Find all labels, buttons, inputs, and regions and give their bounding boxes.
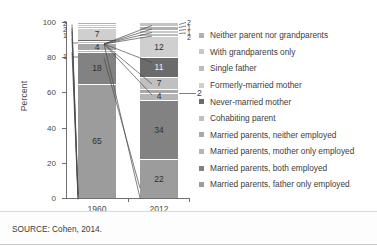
legend-item-5[interactable]: Cohabiting parent bbox=[199, 110, 375, 127]
y-axis-title: Percent bbox=[19, 81, 29, 112]
y-tick-40: 40 bbox=[62, 128, 66, 129]
bar-2012-value-mother-only: 4 bbox=[157, 92, 162, 101]
bar-2012-segment-single-father bbox=[140, 33, 178, 37]
y-tick-60: 60 bbox=[62, 92, 66, 93]
y-tick-0: 0 bbox=[62, 198, 66, 199]
chart-figure: Percent 100 80 60 40 20 0 bbox=[0, 0, 377, 247]
plot-area: 100 80 60 40 20 0 1960 2012 bbox=[66, 22, 189, 198]
bar-2012-segment-married-neither bbox=[140, 89, 178, 93]
bar-2012: 22 34 4 7 11 bbox=[140, 22, 178, 198]
bar-1960-segment-grandparents-only bbox=[78, 24, 116, 26]
x-tick-label-2012: 2012 bbox=[150, 204, 169, 214]
bar-2012-segment-grandparents-only bbox=[140, 30, 178, 33]
legend-label-1: With grandparents only bbox=[210, 48, 295, 56]
legend-swatch-icon-8 bbox=[199, 166, 204, 171]
legend-swatch-icon-0 bbox=[199, 33, 204, 38]
bar-2012-value-formerly-married: 12 bbox=[154, 43, 163, 52]
bar-1960-segment-cohabiting bbox=[78, 41, 116, 43]
panel-divider bbox=[0, 211, 377, 212]
legend-swatch-icon-7 bbox=[199, 149, 204, 154]
bar-1960: 65 18 4 7 bbox=[78, 22, 116, 198]
x-tick-end bbox=[189, 198, 190, 202]
bar-2012-segment-neither-parent bbox=[140, 26, 178, 29]
bar-2012-value-father-only: 22 bbox=[154, 175, 163, 184]
legend-item-9[interactable]: Married parents, father only employed bbox=[199, 176, 375, 193]
legend-swatch-icon-2 bbox=[199, 66, 204, 71]
bar-2012-segment-top-residual bbox=[140, 22, 178, 26]
x-tick-label-1960: 1960 bbox=[88, 204, 107, 214]
bar-2012-segment-formerly-married: 12 bbox=[140, 36, 178, 57]
bar-2012-segment-cohabiting: 7 bbox=[140, 77, 178, 89]
legend-item-3[interactable]: Formerly-married mother bbox=[199, 77, 375, 94]
y-tick-label-20: 20 bbox=[47, 158, 56, 167]
figure-bottom-divider bbox=[0, 244, 377, 245]
legend-item-8[interactable]: Married parents, both employed bbox=[199, 160, 375, 177]
legend-label-7: Married parents, mother only employed bbox=[210, 147, 354, 155]
leader-label-1960-d: 1 bbox=[63, 53, 67, 60]
legend: Neither parent nor grandparents With gra… bbox=[199, 27, 375, 193]
y-tick-20: 20 bbox=[62, 163, 66, 164]
legend-item-6[interactable]: Married parents, neither employed bbox=[199, 127, 375, 144]
bar-2012-value-never-married: 11 bbox=[155, 63, 164, 72]
bar-1960-segment-married-father-only: 65 bbox=[78, 84, 116, 198]
bar-1960-value-both: 18 bbox=[92, 64, 101, 73]
legend-label-8: Married parents, both employed bbox=[210, 164, 327, 172]
bar-2012-value-both: 34 bbox=[154, 126, 163, 135]
leader-label-2012-d: 2 bbox=[187, 34, 191, 41]
y-tick-label-80: 80 bbox=[47, 53, 56, 62]
bar-2012-segment-married-both: 34 bbox=[140, 100, 178, 160]
legend-label-5: Cohabiting parent bbox=[210, 114, 276, 122]
y-tick-label-100: 100 bbox=[43, 18, 56, 27]
chart-panel: Percent 100 80 60 40 20 0 bbox=[0, 0, 377, 212]
y-tick-label-40: 40 bbox=[47, 123, 56, 132]
bar-1960-value-father-only: 65 bbox=[92, 137, 101, 146]
legend-item-4[interactable]: Never-married mother bbox=[199, 93, 375, 110]
legend-label-3: Formerly-married mother bbox=[210, 81, 302, 89]
bar-1960-segment-married-neither: 4 bbox=[78, 43, 116, 50]
legend-swatch-icon-5 bbox=[199, 116, 204, 121]
legend-label-2: Single father bbox=[210, 64, 257, 72]
legend-swatch-icon-4 bbox=[199, 99, 204, 104]
legend-label-6: Married parents, neither employed bbox=[210, 131, 336, 139]
x-tick-mid bbox=[128, 198, 129, 202]
legend-label-4: Never-married mother bbox=[210, 98, 291, 106]
bar-1960-segment-married-both: 18 bbox=[78, 52, 116, 84]
legend-item-2[interactable]: Single father bbox=[199, 60, 375, 77]
source-note: SOURCE: Cohen, 2014. bbox=[12, 224, 102, 234]
legend-item-7[interactable]: Married parents, mother only employed bbox=[199, 143, 375, 160]
legend-item-0[interactable]: Neither parent nor grandparents bbox=[199, 27, 375, 44]
bar-1960-segment-never-married bbox=[78, 40, 116, 41]
y-tick-label-60: 60 bbox=[47, 88, 56, 97]
bar-1960-segment-single-father bbox=[78, 26, 116, 28]
legend-label-9: Married parents, father only employed bbox=[210, 180, 350, 188]
leader-label-1960-c: 1 bbox=[63, 32, 67, 39]
legend-item-1[interactable]: With grandparents only bbox=[199, 44, 375, 61]
bar-2012-segment-never-married: 11 bbox=[140, 57, 178, 76]
bar-1960-segment-neither-parent bbox=[78, 22, 116, 24]
legend-swatch-icon-9 bbox=[199, 182, 204, 187]
y-tick-label-0: 0 bbox=[52, 194, 56, 203]
legend-swatch-icon-3 bbox=[199, 83, 204, 88]
bar-1960-value-formerly-married: 7 bbox=[95, 30, 100, 39]
bar-2012-segment-married-father-only: 22 bbox=[140, 159, 178, 198]
bar-1960-segment-formerly-married: 7 bbox=[78, 28, 116, 40]
legend-label-0: Neither parent nor grandparents bbox=[210, 31, 328, 39]
legend-swatch-icon-6 bbox=[199, 132, 204, 137]
bar-2012-value-cohabiting: 7 bbox=[157, 79, 162, 88]
bar-1960-value-neither-employed: 4 bbox=[95, 43, 100, 52]
bar-2012-segment-married-mother-only: 4 bbox=[140, 93, 178, 100]
legend-swatch-icon-1 bbox=[199, 49, 204, 54]
y-axis-line bbox=[66, 22, 67, 199]
